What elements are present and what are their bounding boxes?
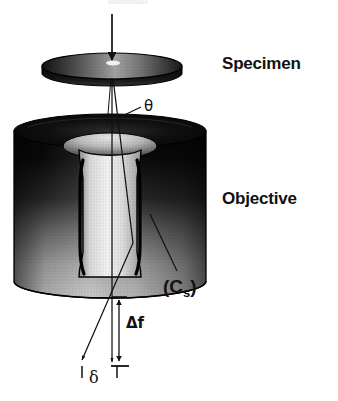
figure-root: Illuminati	[0, 0, 338, 401]
delta-dimension	[82, 366, 117, 378]
scattering-angle-label: θ	[144, 99, 153, 114]
specimen-label: Specimen	[222, 55, 301, 72]
objective-label: Objective	[222, 190, 297, 207]
spherical-aberration-label: (Cs)	[163, 277, 197, 299]
cs-close-paren: )	[190, 276, 196, 297]
beam-spot-highlight	[106, 60, 120, 65]
cs-open-paren: (C	[163, 276, 183, 297]
defocus-label: Δf	[126, 316, 144, 331]
disc-of-least-confusion-label: δ	[89, 370, 99, 386]
